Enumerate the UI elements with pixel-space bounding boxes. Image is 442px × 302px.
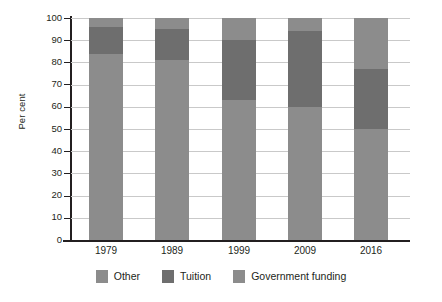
stacked-bar-chart: Per cent 100 90 80 70 60 50 40 30 20 10 … bbox=[0, 0, 442, 302]
legend-swatch-icon bbox=[233, 270, 245, 283]
y-tick-label: 60 bbox=[36, 101, 62, 111]
bar-segment-tuition[interactable] bbox=[354, 69, 388, 129]
bar-segment-other[interactable] bbox=[222, 18, 256, 40]
y-tick-label: 10 bbox=[36, 212, 62, 222]
bar-segment-government-funding[interactable] bbox=[354, 129, 388, 240]
bar-segment-government-funding[interactable] bbox=[222, 100, 256, 240]
bar-2016[interactable] bbox=[354, 18, 388, 240]
bar-segment-government-funding[interactable] bbox=[155, 60, 189, 240]
bar-segment-tuition[interactable] bbox=[288, 31, 322, 106]
bar-segment-tuition[interactable] bbox=[89, 27, 123, 54]
legend-swatch-icon bbox=[162, 270, 174, 283]
y-axis-tick-labels: 100 90 80 70 60 50 40 30 20 10 0 bbox=[30, 0, 62, 302]
bar-segment-tuition[interactable] bbox=[222, 40, 256, 100]
legend-label: Government funding bbox=[251, 270, 346, 283]
legend-item-government-funding[interactable]: Government funding bbox=[233, 270, 346, 283]
y-axis-title: Per cent bbox=[16, 82, 27, 142]
y-tick-label: 50 bbox=[36, 124, 62, 134]
y-tick-label: 0 bbox=[36, 235, 62, 245]
legend-label: Tuition bbox=[180, 270, 211, 283]
x-tick-label-1979: 1979 bbox=[76, 245, 136, 257]
bar-segment-government-funding[interactable] bbox=[288, 107, 322, 240]
legend-item-other[interactable]: Other bbox=[96, 270, 140, 283]
y-tick-label: 90 bbox=[36, 35, 62, 45]
legend-item-tuition[interactable]: Tuition bbox=[162, 270, 211, 283]
legend-label: Other bbox=[114, 270, 140, 283]
bar-1999[interactable] bbox=[222, 18, 256, 240]
bar-1989[interactable] bbox=[155, 18, 189, 240]
x-tick-label-2016: 2016 bbox=[341, 245, 401, 257]
y-tick-label: 70 bbox=[36, 79, 62, 89]
y-tick-label: 40 bbox=[36, 146, 62, 156]
bar-2009[interactable] bbox=[288, 18, 322, 240]
bar-segment-other[interactable] bbox=[155, 18, 189, 29]
bar-segment-government-funding[interactable] bbox=[89, 54, 123, 240]
x-tick-label-1989: 1989 bbox=[142, 245, 202, 257]
y-tick-label: 30 bbox=[36, 168, 62, 178]
y-tick-label: 80 bbox=[36, 57, 62, 67]
y-tick-label: 100 bbox=[36, 13, 62, 23]
bar-segment-other[interactable] bbox=[354, 18, 388, 69]
legend-swatch-icon bbox=[96, 270, 108, 283]
x-axis-line bbox=[63, 240, 410, 242]
chart-legend: Other Tuition Government funding bbox=[0, 270, 442, 283]
bar-segment-other[interactable] bbox=[89, 18, 123, 27]
y-tick-label: 20 bbox=[36, 190, 62, 200]
bar-segment-other[interactable] bbox=[288, 18, 322, 31]
bar-1979[interactable] bbox=[89, 18, 123, 240]
bar-segment-tuition[interactable] bbox=[155, 29, 189, 60]
x-tick-label-2009: 2009 bbox=[275, 245, 335, 257]
plot-area bbox=[71, 18, 410, 240]
x-tick-label-1999: 1999 bbox=[209, 245, 269, 257]
